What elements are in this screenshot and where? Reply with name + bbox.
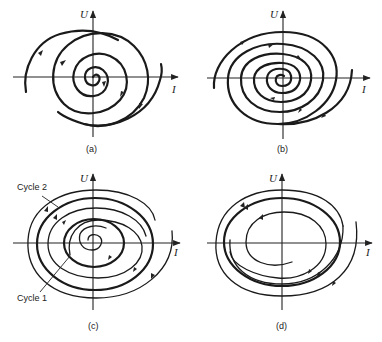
i-axis-label: I (361, 83, 367, 95)
direction-arrow (102, 81, 106, 87)
panel-caption: (a) (86, 144, 97, 154)
direction-arrow (62, 220, 66, 225)
direction-arrow (259, 214, 263, 220)
direction-arrow (60, 60, 66, 66)
cycle-2-label: Cycle 2 (17, 182, 47, 192)
phase-portrait-figure: U I (a) U I (b) U I (0, 0, 382, 342)
direction-arrow (268, 44, 274, 48)
panel-b: U I (b) (207, 8, 370, 154)
panel-caption: (b) (277, 144, 288, 154)
cycle-2-leader (42, 196, 58, 207)
direction-arrow (240, 202, 245, 208)
direction-arrow (133, 267, 137, 272)
inner-trajectory (230, 212, 326, 278)
direction-arrow (38, 50, 43, 56)
panel-d: U I (d) (207, 172, 372, 331)
i-axis-label: I (365, 246, 371, 258)
outer-trajectory (28, 190, 172, 298)
panel-a: U I (a) (13, 8, 178, 154)
panel-caption: (d) (276, 321, 287, 331)
spiral-trajectory (53, 33, 148, 126)
direction-arrow (53, 214, 57, 220)
cycle-1-leader (40, 256, 70, 292)
panel-caption: (c) (88, 321, 99, 331)
u-axis-label: U (80, 8, 89, 20)
u-axis-label: U (80, 172, 89, 184)
u-axis-label: U (269, 172, 278, 184)
i-axis-label: I (173, 246, 179, 258)
cycle-1-label: Cycle 1 (17, 293, 47, 303)
i-axis-label: I (171, 83, 177, 95)
direction-arrow (108, 255, 112, 260)
u-axis-label: U (270, 8, 279, 20)
panel-c: U I Cycle 2 Cycle 1 (c) (13, 172, 180, 331)
limit-cycle-2 (37, 198, 153, 290)
